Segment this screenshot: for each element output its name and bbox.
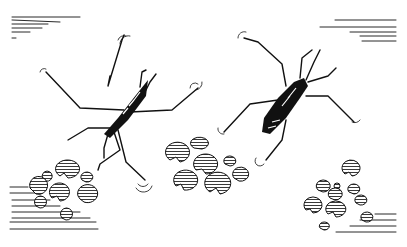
- lily-pads-left: [30, 160, 98, 220]
- lily-pads-center: [166, 137, 249, 194]
- water-strider-illustration: [0, 0, 407, 247]
- lily-pads-right: [304, 160, 373, 230]
- water-lines-top-right: [320, 20, 396, 41]
- water-lines-top-left: [12, 17, 80, 38]
- water-strider-right: [218, 32, 360, 166]
